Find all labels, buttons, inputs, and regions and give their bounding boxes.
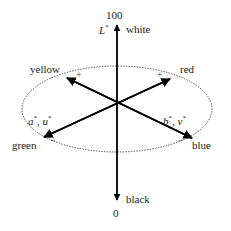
blue-label: blue: [192, 140, 211, 151]
white-label: white: [126, 24, 150, 35]
red-green-axis-symbol: a*, u*: [28, 115, 52, 127]
color-space-diagram: 100 L* white yellow red a*, u* b*, v* gr…: [0, 0, 231, 231]
green-label: green: [12, 140, 36, 151]
lightness-symbol-superscript: *: [105, 23, 109, 31]
red-green-axis-to-green: [44, 79, 170, 137]
blue-negative-sign: −: [178, 136, 184, 146]
yellow-blue-axis-symbol: b*, v*: [163, 115, 186, 127]
black-label: black: [126, 194, 150, 205]
yellow-label: yellow: [30, 64, 60, 75]
lightness-max-value: 100: [106, 10, 123, 21]
green-negative-sign: −: [50, 136, 56, 146]
v-symbol-superscript: *: [182, 114, 186, 122]
lightness-min-value: 0: [113, 208, 119, 219]
yellow-blue-axis-to-blue: [67, 78, 192, 138]
u-symbol-superscript: *: [48, 114, 52, 122]
lightness-axis-symbol: L*: [99, 24, 109, 36]
red-positive-sign: +: [157, 70, 163, 80]
yellow-positive-sign: +: [76, 70, 82, 80]
red-label: red: [180, 64, 194, 75]
